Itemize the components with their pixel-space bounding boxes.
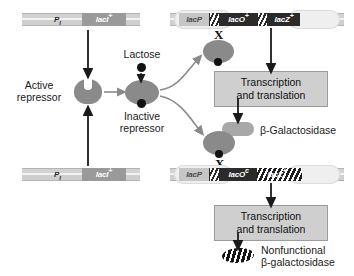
dna-strand-operon-top: lacP lacO+ lacZ+: [170, 13, 344, 26]
gene-label-promoter-I-top: PI: [54, 13, 61, 26]
gene-lacp-top: lacP: [179, 13, 209, 26]
active-repressor-shape: [74, 79, 102, 104]
nonfunctional-beta-galactosidase-label: Nonfunctional β-galactosidase: [261, 244, 335, 268]
gene-label-promoter-I-bottom: PI: [54, 168, 61, 181]
gene-laco-wt-top: lacO+: [220, 13, 257, 26]
gene-lacz-label-bottom: lacZ+: [260, 168, 294, 181]
gene-laci-bottom: lacI+: [82, 168, 126, 181]
lactose-bound-dot-inactive: [137, 99, 146, 108]
dna-strand-operon-bottom: lacP lacOc lacZ+: [170, 168, 344, 181]
transcription-translation-box-bottom: Transcription and translation: [214, 205, 328, 241]
x-mark-no-binding-top: X: [214, 28, 223, 41]
active-repressor-label: Active repressor: [8, 79, 70, 103]
lactose-molecule-dot: [137, 63, 146, 72]
beta-galactosidase-label: β-Galactosidase: [260, 124, 336, 136]
gene-laci-top: lacI+: [82, 13, 126, 26]
dna-strand-regulator-top: PI lacI+: [22, 13, 140, 26]
lactose-label: Lactose: [110, 48, 174, 60]
repressor-binding-cleft: [84, 77, 92, 90]
lactose-bound-dot-top: [214, 58, 222, 66]
dna-strand-regulator-bottom: PI lacI+: [22, 168, 140, 181]
gene-separator-hatch-2: [257, 13, 268, 26]
gene-lacz-wt-top: lacZ+: [268, 13, 300, 26]
gene-separator-hatch-3: [209, 168, 220, 181]
gene-lacp-bottom: lacP: [179, 168, 209, 181]
inactive-repressor-label: Inactive repressor: [110, 110, 174, 134]
transcription-translation-box-top: Transcription and translation: [214, 71, 328, 107]
nonfunctional-beta-galactosidase-shape: [222, 247, 255, 264]
gene-laco-mutant-bottom: lacOc: [220, 168, 257, 181]
arrow-branch-to-top-operon: [160, 58, 199, 90]
lac-operon-diagram: PI lacI+ lacP lacO+ lacZ+ X Lactose Acti…: [0, 0, 354, 276]
gene-separator-hatch-1: [209, 13, 220, 26]
